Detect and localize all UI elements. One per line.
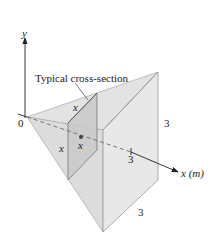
y-axis-label: y xyxy=(21,27,27,39)
x-axis-label: x (m) xyxy=(180,167,204,180)
cross-position-label: x xyxy=(77,139,83,151)
base-width-label: 3 xyxy=(138,206,144,218)
cross-side-top-label: x xyxy=(72,101,78,113)
cross-side-left-label: x xyxy=(58,142,64,154)
cross-section-leader xyxy=(75,83,88,100)
cross-section-label: Typical cross-section xyxy=(35,72,129,84)
origin-label: 0 xyxy=(18,117,24,129)
pyramid-diagram: y Typical cross-section 0 x x x 3 3 x (m… xyxy=(0,0,213,237)
base-height-label: 3 xyxy=(164,117,170,129)
x-tick-label: 3 xyxy=(128,153,134,165)
